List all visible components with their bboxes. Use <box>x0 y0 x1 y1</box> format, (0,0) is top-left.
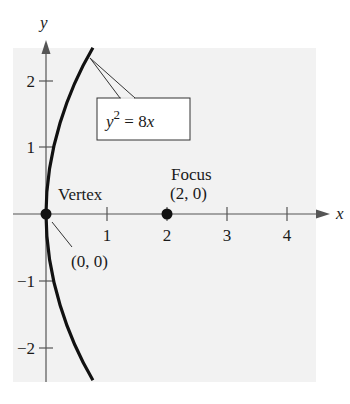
focus-point <box>162 209 173 220</box>
focus-coord-label: (2, 0) <box>170 184 207 203</box>
x-tick-label-2: 2 <box>163 226 172 245</box>
parabola-chart: 1 2 3 4 x 2 1 −1 −2 y y2 = 8x Vertex (0,… <box>0 0 350 404</box>
y-tick-label-2: 2 <box>27 72 36 91</box>
vertex-coord-label: (0, 0) <box>71 252 108 271</box>
x-axis-arrow-icon <box>316 210 330 219</box>
focus-label: Focus <box>171 165 212 184</box>
x-tick-label-3: 3 <box>223 226 232 245</box>
y-tick-label-neg2: −2 <box>17 339 35 358</box>
y-tick-label-neg1: −1 <box>17 272 35 291</box>
y-axis-label: y <box>38 13 48 32</box>
y-axis-arrow-icon <box>42 40 51 54</box>
y-tick-label-1: 1 <box>27 138 36 157</box>
x-tick-label-1: 1 <box>103 226 112 245</box>
x-tick-label-4: 4 <box>283 226 292 245</box>
x-axis-label: x <box>335 204 344 223</box>
vertex-label: Vertex <box>58 185 103 204</box>
vertex-point <box>41 209 52 220</box>
